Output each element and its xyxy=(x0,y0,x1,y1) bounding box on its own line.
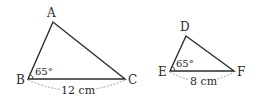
side-length-bc: 12 cm xyxy=(61,84,96,97)
triangle-def: D E F 65° 8 cm xyxy=(158,20,245,88)
vertex-label-d: D xyxy=(180,20,190,34)
triangle-abc: A B C 65° 12 cm xyxy=(16,6,137,97)
vertex-label-f: F xyxy=(237,65,245,79)
angle-label-b: 65° xyxy=(35,66,53,77)
vertex-label-b: B xyxy=(16,73,25,87)
side-length-ef: 8 cm xyxy=(190,75,218,88)
vertex-label-c: C xyxy=(128,73,137,87)
vertex-label-a: A xyxy=(46,6,56,20)
geometry-diagram: A B C 65° 12 cm D E F 65° 8 cm xyxy=(0,0,260,105)
angle-label-e: 65° xyxy=(176,58,194,69)
vertex-label-e: E xyxy=(158,65,167,79)
